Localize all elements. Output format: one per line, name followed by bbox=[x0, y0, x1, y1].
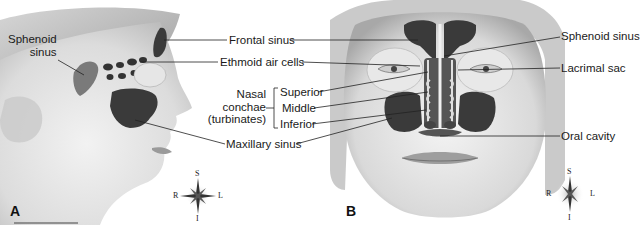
compass-a-right: R bbox=[173, 191, 178, 200]
panel-label-a: A bbox=[10, 203, 20, 219]
label-sphenoid-sinus-anterior: Sphenoid sinus bbox=[561, 30, 640, 43]
label-nasal: Nasal bbox=[200, 88, 266, 101]
label-frontal-sinus: Frontal sinus bbox=[229, 34, 295, 47]
label-oral-cavity: Oral cavity bbox=[561, 130, 615, 143]
compass-a-left: L bbox=[218, 191, 223, 200]
label-inferior-concha: Inferior bbox=[280, 118, 316, 131]
panel-label-b: B bbox=[346, 203, 356, 219]
compass-b-left: L bbox=[590, 189, 595, 198]
compass-b-inferior: I bbox=[568, 213, 571, 222]
label-ethmoid-air-cells: Ethmoid air cells bbox=[220, 56, 304, 69]
label-lacrimal-sac: Lacrimal sac bbox=[561, 62, 626, 75]
label-superior-concha: Superior bbox=[280, 86, 323, 99]
panel-b-illustration bbox=[330, 0, 565, 218]
label-maxillary-sinus: Maxillary sinus bbox=[226, 138, 301, 151]
illustration bbox=[0, 0, 641, 225]
label-sphenoid-sinus-lateral: Sphenoid sinus bbox=[8, 33, 57, 58]
label-sphenoid-line2: sinus bbox=[8, 46, 57, 59]
compass-b-superior: S bbox=[567, 167, 571, 176]
label-middle-concha: Middle bbox=[282, 102, 316, 115]
label-nasal-conchae: Nasal conchae (turbinates) bbox=[200, 88, 266, 126]
label-sphenoid-line1: Sphenoid bbox=[8, 33, 57, 46]
label-conchae: conchae bbox=[200, 101, 266, 114]
compass-a-superior: S bbox=[195, 169, 199, 178]
compass-b-right: R bbox=[546, 189, 551, 198]
compass-rose-a bbox=[180, 178, 216, 214]
compass-a-inferior: I bbox=[196, 214, 199, 223]
sinus-diagram: Sphenoid sinus Frontal sinus Ethmoid air… bbox=[0, 0, 641, 225]
label-turbinates: (turbinates) bbox=[200, 113, 266, 126]
